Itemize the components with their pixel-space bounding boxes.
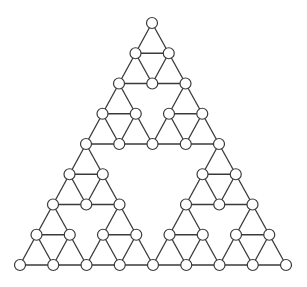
graph-node [180,78,191,89]
nodes [15,18,292,271]
graph-node [163,48,174,59]
graph-node [181,260,192,271]
graph-node [197,108,208,119]
graph-node [81,199,92,210]
graph-node [247,260,258,271]
graph-node [281,260,292,271]
graph-node [114,199,125,210]
graph-node [164,229,175,240]
graph-node [114,260,125,271]
graph-node [130,108,141,119]
graph-node [64,169,75,180]
graph-node [130,48,141,59]
sierpinski-graph [0,0,307,287]
graph-node [214,260,225,271]
graph-node [15,260,26,271]
graph-node [181,199,192,210]
graph-node [180,139,191,150]
graph-node [97,108,108,119]
graph-node [214,139,225,150]
graph-node [147,139,158,150]
graph-node [214,199,225,210]
graph-node [48,199,59,210]
graph-node [148,260,159,271]
graph-node [48,260,59,271]
graph-node [147,78,158,89]
graph-node [230,169,241,180]
graph-node [197,169,208,180]
graph-node [264,229,275,240]
graph-node [147,18,158,29]
graph-node [81,139,92,150]
graph-node [197,229,208,240]
graph-node [97,169,108,180]
graph-node [114,139,125,150]
graph-node [131,229,142,240]
graph-node [98,229,109,240]
graph-node [164,108,175,119]
graph-node [231,229,242,240]
graph-node [64,229,75,240]
graph-node [114,78,125,89]
graph-node [31,229,42,240]
graph-node [247,199,258,210]
graph-node [81,260,92,271]
